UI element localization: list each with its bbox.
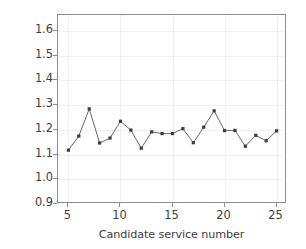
y-tick-mark bbox=[53, 104, 57, 105]
data-point-marker bbox=[171, 132, 174, 135]
y-tick-label: 1.4 bbox=[13, 71, 53, 85]
x-axis-title: Candidate service number bbox=[57, 228, 286, 241]
x-tick-label: 5 bbox=[52, 208, 82, 222]
data-point-marker bbox=[108, 136, 111, 139]
data-point-marker bbox=[275, 129, 278, 132]
data-point-marker bbox=[265, 139, 268, 142]
y-tick-mark bbox=[53, 129, 57, 130]
data-point-marker bbox=[119, 120, 122, 123]
data-point-marker bbox=[202, 126, 205, 129]
x-tick-label: 25 bbox=[261, 208, 291, 222]
y-tick-label: 1.3 bbox=[13, 96, 53, 110]
x-tick-mark bbox=[67, 203, 68, 207]
data-point-marker bbox=[192, 141, 195, 144]
x-tick-mark bbox=[224, 203, 225, 207]
y-tick-mark bbox=[53, 178, 57, 179]
data-point-marker bbox=[150, 130, 153, 133]
x-tick-label: 10 bbox=[104, 208, 134, 222]
data-point-marker bbox=[181, 127, 184, 130]
data-point-marker bbox=[233, 129, 236, 132]
y-tick-mark bbox=[53, 55, 57, 56]
y-tick-label: 1.5 bbox=[13, 47, 53, 61]
data-point-marker bbox=[77, 134, 80, 137]
y-tick-label: 1.0 bbox=[13, 170, 53, 184]
data-point-marker bbox=[88, 107, 91, 110]
x-tick-mark bbox=[119, 203, 120, 207]
x-tick-mark bbox=[276, 203, 277, 207]
y-tick-label: 0.9 bbox=[13, 195, 53, 209]
data-point-marker bbox=[67, 149, 70, 152]
y-tick-label: 1.2 bbox=[13, 121, 53, 135]
data-point-marker bbox=[254, 134, 257, 137]
y-tick-mark bbox=[53, 203, 57, 204]
y-tick-mark bbox=[53, 154, 57, 155]
y-tick-mark bbox=[53, 79, 57, 80]
data-point-marker bbox=[223, 129, 226, 132]
data-point-marker bbox=[244, 145, 247, 148]
data-point-marker bbox=[98, 141, 101, 144]
chart-figure: Execution time(ms) 0.91.01.11.21.31.41.5… bbox=[0, 0, 306, 249]
x-tick-label: 15 bbox=[157, 208, 187, 222]
data-series-line bbox=[58, 15, 286, 203]
y-tick-label: 1.1 bbox=[13, 146, 53, 160]
y-tick-mark bbox=[53, 30, 57, 31]
data-point-marker bbox=[129, 129, 132, 132]
data-point-marker bbox=[160, 132, 163, 135]
plot-area bbox=[57, 14, 286, 203]
x-tick-label: 20 bbox=[209, 208, 239, 222]
data-point-marker bbox=[140, 147, 143, 150]
y-tick-label: 1.6 bbox=[13, 22, 53, 36]
x-tick-mark bbox=[172, 203, 173, 207]
data-point-marker bbox=[213, 109, 216, 112]
